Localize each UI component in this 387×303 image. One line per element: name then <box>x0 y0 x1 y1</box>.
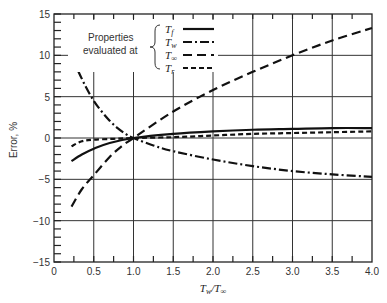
x-tick-label: 1.5 <box>166 266 180 277</box>
x-tick-label: 3.0 <box>286 266 300 277</box>
y-tick-label: −5 <box>39 174 51 185</box>
legend-heading-line2: evaluated at <box>83 45 138 56</box>
y-tick-label: 5 <box>44 92 50 103</box>
x-tick-label: 3.5 <box>325 266 339 277</box>
x-tick-label: 2.5 <box>246 266 260 277</box>
series-line-t-w <box>71 55 372 177</box>
y-axis-label: Error, % <box>8 122 19 158</box>
legend-heading-line1: Properties <box>88 32 134 43</box>
y-tick-label: 10 <box>39 50 51 61</box>
x-tick-label: 1.0 <box>127 266 141 277</box>
series-line-t-r <box>71 131 372 146</box>
y-tick-label: −15 <box>33 257 50 268</box>
x-tick-label: 0 <box>51 266 57 277</box>
y-tick-label: 0 <box>44 133 50 144</box>
x-tick-label: 2.0 <box>206 266 220 277</box>
x-axis-label: Tw/T∞ <box>200 282 227 296</box>
y-tick-label: −10 <box>33 216 50 227</box>
x-tick-label: 4.0 <box>365 266 379 277</box>
legend: Properties evaluated at TfTwT∞Tr <box>68 20 218 76</box>
y-tick-label: 15 <box>39 9 51 20</box>
x-tick-label: 0.5 <box>87 266 101 277</box>
error-vs-temperature-ratio-chart: 00.51.01.52.02.53.03.54.0151050−5−10−15 … <box>0 0 387 303</box>
